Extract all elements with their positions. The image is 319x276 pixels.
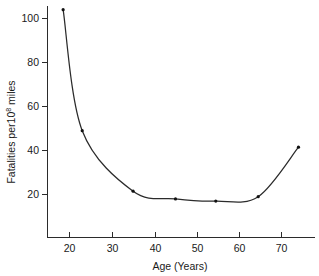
x-tick-label-20: 20 [64,242,76,254]
x-axis-title: Age (Years) [152,260,207,272]
x-tick-label-40: 40 [150,242,162,254]
fatalities-vs-age-line-chart: 100 80 60 40 20 20 30 40 50 60 70 Age (Y… [0,0,319,276]
x-tick-label-50: 50 [192,242,204,254]
data-point [214,200,217,203]
data-point [257,195,260,198]
x-tick-label-70: 70 [276,242,288,254]
x-tick-label-60: 60 [234,242,246,254]
y-axis-title-prefix: Fatalities per10 [5,112,17,184]
y-tick-label-60: 60 [27,100,39,112]
data-point [81,129,84,132]
data-point [297,146,300,149]
data-point [132,190,135,193]
data-point [62,8,65,11]
svg-text:Fatalities per108 miles: Fatalities per108 miles [5,80,17,183]
y-tick-label-20: 20 [27,188,39,200]
y-axis-title: Fatalities per108 miles [5,80,17,183]
y-axis-title-suffix: miles [5,80,17,107]
data-point [174,197,177,200]
y-tick-label-80: 80 [27,56,39,68]
y-tick-label-100: 100 [21,12,39,24]
x-tick-label-30: 30 [107,242,119,254]
chart-figure: 100 80 60 40 20 20 30 40 50 60 70 Age (Y… [0,0,319,276]
y-tick-label-40: 40 [27,144,39,156]
